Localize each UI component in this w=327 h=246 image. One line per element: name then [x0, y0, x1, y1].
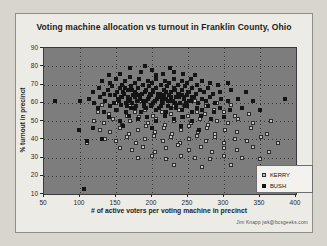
data-point-bush [206, 86, 210, 90]
x-tick-label: 250 [177, 199, 197, 206]
data-point-bush [82, 187, 86, 191]
data-point-bush [186, 90, 190, 94]
gridline [44, 121, 296, 122]
data-point-bush [208, 95, 212, 99]
data-point-bush [216, 83, 220, 87]
y-tick-mark [40, 47, 43, 48]
data-point-kerry [210, 150, 214, 154]
data-point-bush [251, 99, 255, 103]
data-point-bush [150, 126, 154, 130]
data-point-kerry [118, 146, 122, 150]
data-point-bush [143, 90, 147, 94]
data-point-bush [174, 106, 178, 110]
data-point-kerry [235, 148, 239, 152]
y-tick-mark [40, 120, 43, 121]
x-tick-label: 50 [33, 199, 53, 206]
data-point-bush [108, 104, 112, 108]
data-point-bush [121, 124, 125, 128]
data-point-bush [110, 84, 114, 88]
legend-label-kerry: KERRY [270, 172, 290, 178]
data-point-kerry [199, 145, 203, 149]
data-point-bush [228, 108, 232, 112]
data-point-kerry [108, 130, 112, 134]
data-point-bush [208, 81, 212, 85]
data-point-kerry [186, 114, 190, 118]
data-point-bush [159, 83, 163, 87]
x-tick-mark [151, 194, 152, 197]
data-point-kerry [179, 154, 183, 158]
data-point-kerry [200, 165, 204, 169]
x-tick-mark [115, 194, 116, 197]
data-point-bush [77, 128, 81, 132]
legend: KERRY BUSH [256, 165, 313, 193]
data-point-kerry [233, 137, 237, 141]
data-point-bush [206, 104, 210, 108]
data-point-bush [87, 97, 91, 101]
data-point-bush [226, 99, 230, 103]
x-tick-mark [259, 194, 260, 197]
data-point-kerry [195, 134, 199, 138]
data-point-kerry [172, 163, 176, 167]
data-point-bush [149, 103, 153, 107]
data-point-bush [97, 86, 101, 90]
data-point-bush [181, 72, 185, 76]
data-point-bush [154, 108, 158, 112]
y-tick-label: 20 [18, 171, 38, 178]
data-point-bush [185, 104, 189, 108]
data-point-bush [141, 83, 145, 87]
data-point-bush [244, 90, 248, 94]
data-point-kerry [162, 126, 166, 130]
data-point-bush [159, 93, 163, 97]
legend-label-bush: BUSH [270, 183, 286, 189]
data-point-bush [199, 114, 203, 118]
data-point-bush [143, 64, 147, 68]
data-point-bush [204, 99, 208, 103]
data-point-kerry [236, 117, 240, 121]
data-point-kerry [222, 146, 226, 150]
data-point-bush [219, 97, 223, 101]
x-tick-label: 350 [249, 199, 269, 206]
data-point-bush [172, 117, 176, 121]
data-point-bush [200, 108, 204, 112]
x-tick-mark [43, 194, 44, 197]
data-point-kerry [103, 137, 107, 141]
data-point-kerry [193, 156, 197, 160]
data-point-bush [195, 83, 199, 87]
y-tick-label: 70 [18, 80, 38, 87]
data-point-bush [100, 79, 104, 83]
data-point-bush [119, 95, 123, 99]
data-point-bush [181, 115, 185, 119]
data-point-bush [123, 79, 127, 83]
data-point-bush [189, 77, 193, 81]
data-point-bush [112, 101, 116, 105]
data-point-kerry [235, 130, 239, 134]
data-point-kerry [215, 119, 219, 123]
data-point-bush [174, 103, 178, 107]
data-point-bush [92, 101, 96, 105]
data-point-bush [226, 81, 230, 85]
data-point-kerry [265, 132, 269, 136]
y-tick-label: 60 [18, 98, 38, 105]
data-point-kerry [203, 112, 207, 116]
data-point-bush [172, 70, 176, 74]
data-point-bush [100, 137, 104, 141]
data-point-bush [108, 93, 112, 97]
data-point-bush [129, 106, 133, 110]
y-tick-mark [40, 102, 43, 103]
data-point-kerry [152, 134, 156, 138]
data-point-bush [200, 79, 204, 83]
data-point-bush [218, 90, 222, 94]
data-point-bush [148, 92, 152, 96]
data-point-bush [163, 114, 167, 118]
data-point-bush [283, 97, 287, 101]
data-point-kerry [267, 150, 271, 154]
data-point-kerry [249, 126, 253, 130]
data-point-bush [258, 108, 262, 112]
data-point-kerry [187, 124, 191, 128]
data-point-bush [127, 114, 131, 118]
data-point-bush [139, 70, 143, 74]
data-point-kerry [247, 112, 251, 116]
data-point-bush [185, 93, 189, 97]
y-tick-mark [40, 175, 43, 176]
data-point-bush [118, 119, 122, 123]
